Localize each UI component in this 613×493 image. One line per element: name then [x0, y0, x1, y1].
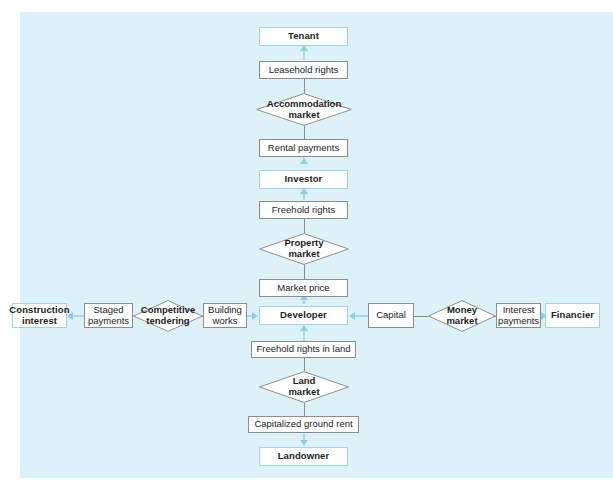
connector-groundrent-to-landmarket	[304, 403, 305, 416]
node-label: Property market	[284, 238, 323, 260]
node-label: Accommodation market	[267, 99, 341, 121]
node-leasehold-rights[interactable]: Leasehold rights	[259, 61, 348, 79]
node-capitalized-ground-rent[interactable]: Capitalized ground rent	[248, 416, 359, 433]
node-label: Land market	[288, 376, 319, 398]
diagram-stage: Tenant Leasehold rights Accommodation ma…	[0, 0, 613, 493]
node-accommodation-market[interactable]: Accommodation market	[256, 93, 352, 126]
node-property-market[interactable]: Property market	[259, 233, 349, 265]
node-rental-payments[interactable]: Rental payments	[259, 139, 348, 157]
node-investor[interactable]: Investor	[259, 170, 348, 189]
arrowhead-buildingworks-to-developer	[252, 312, 258, 320]
node-competitive-tendering[interactable]: Competitive tendering	[133, 300, 203, 332]
node-staged-payments[interactable]: Staged payments	[84, 303, 133, 328]
arrowhead-capital-to-developer	[349, 312, 355, 320]
node-freehold-rights[interactable]: Freehold rights	[259, 201, 348, 219]
connector-property-to-freehold	[304, 219, 305, 233]
node-land-market[interactable]: Land market	[259, 371, 349, 403]
connector-rental-to-accommodation	[304, 125, 305, 139]
node-label: Money market	[446, 305, 477, 327]
node-freehold-rights-in-land[interactable]: Freehold rights in land	[251, 341, 356, 358]
connector-landmarket-to-freeholdland	[304, 357, 305, 371]
node-construction-interest[interactable]: Construction interest	[12, 303, 67, 328]
connector-moneymarket-to-capital	[414, 316, 428, 317]
node-developer[interactable]: Developer	[259, 306, 348, 325]
node-money-market[interactable]: Money market	[428, 300, 496, 332]
node-interest-payments[interactable]: Interest payments	[496, 303, 541, 328]
node-market-price[interactable]: Market price	[259, 279, 348, 297]
connector-accommodation-to-leasehold	[304, 79, 305, 93]
node-label: Competitive tendering	[141, 305, 195, 327]
node-landowner[interactable]: Landowner	[259, 447, 348, 466]
arrowhead-to-investor	[300, 158, 308, 164]
node-capital[interactable]: Capital	[368, 303, 414, 328]
connector-marketprice-to-property	[304, 265, 305, 279]
arrowhead-to-landowner	[300, 440, 308, 446]
arrowhead-freeholdland-to-developer	[300, 325, 308, 331]
node-tenant[interactable]: Tenant	[259, 27, 348, 46]
node-building-works[interactable]: Building works	[203, 303, 247, 328]
connector-leasehold-to-tenant	[303, 51, 305, 60]
node-financier[interactable]: Financier	[545, 303, 600, 328]
